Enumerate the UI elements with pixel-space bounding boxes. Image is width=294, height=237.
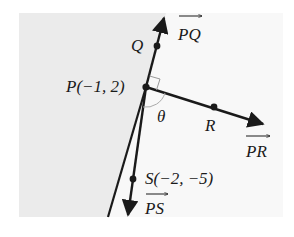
- label-p: P(−1, 2): [65, 77, 125, 96]
- label-q: Q: [131, 36, 143, 55]
- point-s: [130, 176, 137, 183]
- label-r: R: [204, 116, 216, 135]
- vector-diagram: Q P(−1, 2) R S(−2, −5) θ PQ PR PS: [0, 0, 294, 237]
- svg-text:PS: PS: [144, 199, 164, 218]
- svg-text:PR: PR: [245, 142, 267, 161]
- point-p: [142, 83, 149, 90]
- point-q: [154, 43, 161, 50]
- label-theta: θ: [157, 107, 165, 126]
- point-r: [211, 104, 218, 111]
- label-s: S(−2, −5): [145, 169, 214, 188]
- svg-text:PQ: PQ: [177, 25, 201, 44]
